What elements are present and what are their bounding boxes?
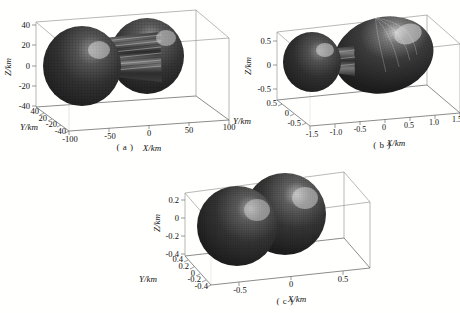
plot-b-z-axis: 0.5 0 -0.5 Z/km bbox=[243, 36, 277, 94]
plot-a-x-tick-3: 50 bbox=[185, 125, 194, 135]
plot-panel-b: 0.5 0 -0.5 Z/km 0.5 0 -0.5 Y/km bbox=[232, 0, 460, 160]
plot-b-z-tick-0: 0.5 bbox=[260, 36, 271, 46]
plot-c-svg: 0.2 0 -0.2 -0.4 Z/km 0.4 0.2 0 -0.2 -0.4… bbox=[125, 158, 375, 313]
plot-c-y-tick-4: -0.4 bbox=[195, 281, 209, 291]
plot-c-z-axis-label: Z/km bbox=[152, 213, 162, 232]
plot-b-y-tick-2: -0.5 bbox=[288, 118, 301, 128]
plot-c-x-tick-2: 0.5 bbox=[338, 274, 349, 284]
plot-c-y-axis-label: Y/km bbox=[139, 274, 158, 284]
plot-c-caption: ( c ) bbox=[255, 296, 315, 306]
plot-b-z-tick-1: 0 bbox=[267, 60, 271, 70]
plot-a-caption: ( a ) bbox=[95, 142, 155, 152]
plot-b-body-surface bbox=[283, 7, 441, 104]
plot-c-x-tick-0: -0.5 bbox=[233, 285, 246, 295]
plot-b-y-axis: 0.5 0 -0.5 Y/km bbox=[233, 98, 306, 128]
plot-c-z-tick-1: 0 bbox=[175, 213, 179, 223]
plot-b-svg: 0.5 0 -0.5 Z/km 0.5 0 -0.5 Y/km bbox=[232, 0, 460, 160]
plot-b-x-tick-1: -1.0 bbox=[330, 128, 343, 137]
plot-a-body-surface bbox=[43, 18, 184, 106]
plot-c-z-tick-2: -0.2 bbox=[166, 231, 179, 241]
plot-b-y-tick-1: 0 bbox=[285, 108, 289, 118]
plot-a-z-tick-4: -40 bbox=[19, 101, 30, 111]
plot-b-x-tick-2: -0.5 bbox=[354, 125, 367, 134]
plot-a-x-tick-1: -50 bbox=[104, 131, 115, 141]
plot-a-z-tick-0: 40 bbox=[22, 20, 31, 30]
plot-b-x-tick-4: 0.5 bbox=[404, 121, 414, 130]
plot-b-x-tick-5: 1.0 bbox=[429, 118, 439, 127]
plot-a-z-tick-3: -20 bbox=[19, 81, 30, 91]
plot-b-x-tick-3: 0 bbox=[382, 123, 386, 132]
plot-a-z-axis: 40 20 0 -20 -40 Z/km bbox=[3, 20, 36, 111]
plot-c-z-axis: 0.2 0 -0.2 -0.4 Z/km bbox=[152, 195, 185, 259]
plot-a-svg: 40 20 0 -20 -40 Z/km 40 20 -20 -40 Y/km bbox=[0, 0, 240, 160]
plot-c-y-tick-1: 0.2 bbox=[178, 261, 189, 271]
plot-panel-a: 40 20 0 -20 -40 Z/km 40 20 -20 -40 Y/km bbox=[0, 0, 240, 160]
plot-b-y-axis-label: Y/km bbox=[233, 116, 252, 126]
plot-a-z-tick-2: 0 bbox=[26, 61, 30, 71]
plot-c-x-tick-1: 0 bbox=[289, 279, 293, 289]
plot-a-x-tick-2: 0 bbox=[147, 128, 151, 138]
plot-c-body-surface bbox=[197, 173, 326, 266]
plot-b-x-tick-6: 1.5 bbox=[452, 115, 460, 124]
plot-c-z-tick-0: 0.2 bbox=[168, 195, 179, 205]
plot-a-z-axis-label: Z/km bbox=[3, 57, 13, 76]
plot-b-y-tick-0: 0.5 bbox=[266, 98, 277, 108]
plot-a-y-axis-label: Y/km bbox=[20, 122, 39, 132]
figure-three-3d-contact-binary-plots: 40 20 0 -20 -40 Z/km 40 20 -20 -40 Y/km bbox=[0, 0, 460, 313]
plot-b-caption: ( b ) bbox=[352, 140, 412, 150]
plot-b-x-tick-0: -1.5 bbox=[306, 130, 319, 139]
plot-panel-c: 0.2 0 -0.2 -0.4 Z/km 0.4 0.2 0 -0.2 -0.4… bbox=[125, 158, 375, 313]
plot-a-x-tick-0: -100 bbox=[62, 134, 78, 144]
plot-a-z-tick-1: 20 bbox=[22, 40, 31, 50]
plot-b-z-tick-2: -0.5 bbox=[258, 84, 271, 94]
plot-b-z-axis-label: Z/km bbox=[243, 56, 253, 75]
